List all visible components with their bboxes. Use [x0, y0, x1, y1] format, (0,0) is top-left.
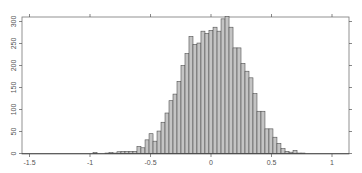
y-tick-label: 0 — [10, 151, 17, 155]
histogram-chart: -1.5-1-0.500.51 050100150200250300 — [0, 0, 362, 173]
y-tick-label: 150 — [10, 82, 17, 94]
histogram-bar — [181, 66, 185, 154]
y-tick-label: 250 — [10, 38, 17, 50]
histogram-bar — [225, 17, 229, 154]
histogram-bar — [149, 134, 153, 154]
histogram-bar — [169, 101, 173, 154]
x-tick-label: 1 — [330, 159, 334, 166]
histogram-bar — [257, 111, 261, 153]
histogram-bar — [177, 81, 181, 153]
histogram-bar — [253, 94, 257, 154]
histogram-bar — [173, 94, 177, 153]
histogram-bar — [265, 129, 269, 154]
histogram-bar — [201, 31, 205, 153]
histogram-bar — [241, 63, 245, 153]
histogram-bar — [277, 143, 281, 153]
histogram-bar — [229, 27, 233, 153]
histogram-bar — [213, 27, 217, 153]
histogram-bar — [205, 33, 209, 153]
histogram-bar — [137, 146, 141, 153]
histogram-bar — [221, 19, 225, 154]
histogram-bar — [281, 149, 285, 154]
histogram-bar — [141, 148, 145, 154]
histogram-bar — [189, 36, 193, 153]
histogram-bar — [293, 150, 297, 153]
histogram-bar — [165, 113, 169, 153]
y-tick-label: 300 — [10, 16, 17, 28]
x-tick-label: -1 — [87, 159, 93, 166]
histogram-bar — [269, 129, 273, 154]
x-tick-label: 0.5 — [267, 159, 277, 166]
histogram-bar — [161, 122, 165, 153]
histogram-bar — [197, 43, 201, 153]
y-tick-label: 50 — [10, 128, 17, 136]
histogram-bar — [261, 111, 265, 153]
histogram-bar — [273, 137, 277, 153]
histogram-bar — [233, 48, 237, 154]
y-tick-label: 200 — [10, 60, 17, 72]
histogram-bar — [153, 141, 157, 153]
histogram-bar — [217, 31, 221, 153]
histogram-bar — [193, 44, 197, 153]
histogram-bar — [145, 140, 149, 154]
x-tick-label: 0 — [209, 159, 213, 166]
histogram-bar — [245, 71, 249, 153]
histogram-bar — [209, 30, 213, 153]
x-tick-label: -0.5 — [144, 159, 156, 166]
histogram-bar — [237, 48, 241, 154]
histogram-bar — [185, 54, 189, 154]
histogram-bar — [249, 78, 253, 154]
histogram-bar — [157, 131, 161, 153]
y-tick-label: 100 — [10, 104, 17, 116]
x-tick-label: -1.5 — [23, 159, 35, 166]
